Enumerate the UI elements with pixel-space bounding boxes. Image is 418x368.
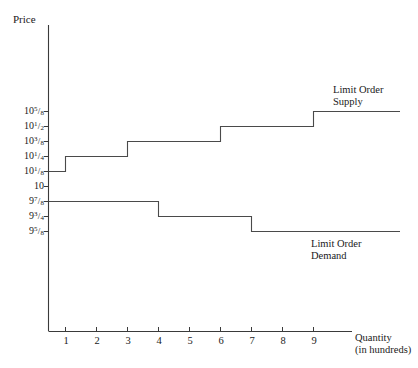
chart-canvas — [0, 0, 418, 368]
limit-order-demand-curve — [49, 202, 401, 232]
y-axis-ticks — [44, 112, 49, 232]
y-tick-label-10: 10 — [4, 180, 44, 191]
supply-annotation-line2: Supply — [333, 96, 383, 108]
x-tick-label-3: 3 — [120, 335, 136, 346]
limit-order-demand-annotation: Limit Order Demand — [311, 238, 361, 262]
limit-order-supply-curve — [49, 112, 401, 172]
x-tick-label-1: 1 — [58, 335, 74, 346]
demand-annotation-line2: Demand — [311, 250, 361, 262]
x-tick-label-4: 4 — [151, 335, 167, 346]
x-tick-label-2: 2 — [89, 335, 105, 346]
limit-order-supply-annotation: Limit Order Supply — [333, 84, 383, 108]
y-tick-label-10-5-8: 105/8 — [4, 105, 44, 116]
y-tick-label-9-7-8: 97/8 — [4, 195, 44, 206]
x-tick-label-5: 5 — [182, 335, 198, 346]
x-axis-title: Quantity (in hundreds) — [355, 332, 411, 356]
y-tick-label-10-1-2: 101/2 — [4, 120, 44, 131]
limit-order-book-chart: Price 105/8 101/2 103/8 101/4 101/8 10 9… — [0, 0, 418, 368]
x-tick-label-7: 7 — [244, 335, 260, 346]
x-tick-label-8: 8 — [275, 335, 291, 346]
x-tick-label-6: 6 — [213, 335, 229, 346]
y-tick-label-10-3-8: 103/8 — [4, 135, 44, 146]
x-axis-title-line2: (in hundreds) — [355, 344, 411, 356]
supply-annotation-line1: Limit Order — [333, 84, 383, 96]
x-tick-label-9: 9 — [306, 335, 322, 346]
x-axis-title-line1: Quantity — [355, 332, 411, 344]
y-tick-label-10-1-8: 101/8 — [4, 165, 44, 176]
x-axis-ticks — [66, 327, 314, 332]
y-axis-title: Price — [13, 13, 36, 26]
y-tick-label-9-5-8: 95/8 — [4, 225, 44, 236]
y-tick-label-9-3-4: 93/4 — [4, 210, 44, 221]
demand-annotation-line1: Limit Order — [311, 238, 361, 250]
y-tick-label-10-1-4: 101/4 — [4, 150, 44, 161]
axes-group — [49, 25, 353, 332]
